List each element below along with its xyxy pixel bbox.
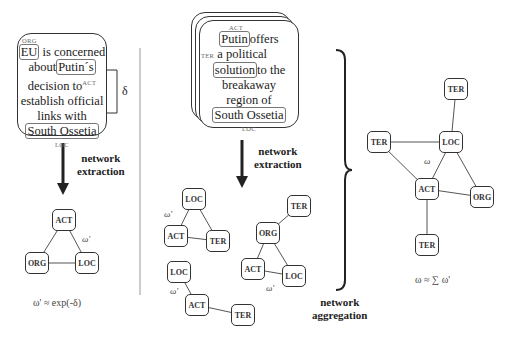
label-line: aggregation (312, 309, 367, 322)
entity-putin: Putin (219, 31, 249, 47)
node-org: ORG (256, 222, 280, 244)
document-text-putin: ACT Putinoffers TER a political solution… (199, 22, 299, 133)
delta-bracket (106, 70, 117, 113)
aggregation-brace (336, 50, 352, 290)
edge-weight-label: ω' (164, 209, 172, 219)
node-org: ORG (470, 186, 494, 208)
tag-loc: LOC (242, 125, 256, 132)
node-ter: TER (367, 131, 391, 153)
node-act: ACT (164, 225, 188, 247)
doc-text: decision to (28, 79, 83, 93)
node-act: ACT (415, 178, 439, 200)
node-ter: TER (444, 78, 468, 100)
network-aggregation-label: network aggregation (312, 296, 367, 322)
node-loc: LOC (282, 265, 306, 287)
doc-text: offers (250, 32, 279, 46)
node-act: ACT (52, 209, 76, 231)
formula-right: ω ≈ ∑ ω' (415, 274, 450, 285)
doc-text: region of (226, 93, 271, 107)
doc-text: links with (37, 109, 87, 123)
node-loc: LOC (167, 261, 191, 283)
node-loc: LOC (182, 188, 206, 210)
edge-weight-label: ω (424, 156, 430, 166)
entity-putin: Putin´s (56, 59, 95, 75)
formula-left: ω' ≈ exp(-δ) (33, 297, 81, 308)
edge-weight-label: ω' (266, 283, 274, 293)
tag-act: ACT (82, 79, 96, 86)
node-ter: TER (415, 234, 439, 256)
tag-ter: TER (201, 52, 214, 59)
doc-text: is concerned (42, 45, 105, 59)
node-ter: TER (287, 195, 311, 217)
doc-text: establish official (21, 94, 104, 108)
doc-text: a political (217, 47, 267, 61)
doc-text: to the (257, 63, 285, 77)
node-loc: LOC (75, 252, 99, 274)
label-line: network (77, 152, 125, 165)
delta-label: δ (122, 84, 128, 99)
tag-org: ORG (22, 37, 37, 44)
node-act: ACT (241, 258, 265, 280)
edge-weight-label: ω' (170, 286, 178, 296)
arrow-down-icon (236, 176, 248, 188)
tag-act: ACT (229, 24, 243, 31)
node-org: ORG (25, 252, 49, 274)
arrow-down-icon (57, 183, 69, 195)
label-line: extraction (254, 158, 302, 171)
label-line: extraction (77, 165, 125, 178)
doc-text: breakaway (222, 78, 276, 92)
network-extraction-label-left: network extraction (77, 152, 125, 178)
node-ter: TER (206, 230, 230, 252)
entity-eu: EU (19, 44, 40, 60)
entity-south-ossetia: South Ossetia (25, 123, 98, 139)
entity-south-ossetia: South Ossetia (212, 107, 285, 123)
entity-solution: solution (213, 62, 257, 78)
label-line: network (254, 145, 302, 158)
document-text-eu: ORG EU is concerned aboutPutin´s decisio… (17, 35, 107, 149)
network-extraction-label-middle: network extraction (254, 145, 302, 171)
doc-text: about (28, 60, 56, 74)
node-ter: TER (231, 304, 255, 326)
edge-weight-label: ω' (82, 234, 90, 244)
label-line: network (312, 296, 367, 309)
node-act: ACT (185, 294, 209, 316)
tag-loc: LOC (55, 141, 69, 148)
node-loc: LOC (439, 131, 463, 153)
